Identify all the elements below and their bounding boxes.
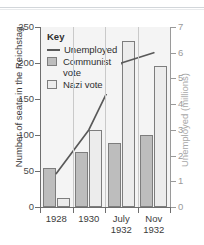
x-axis-tick [105, 208, 106, 213]
category-separator [105, 27, 106, 207]
x-axis-tick [40, 208, 41, 213]
category-separator [73, 27, 74, 207]
legend-title: Key [47, 31, 117, 42]
y-axis-left-tick-label: 0 [29, 202, 34, 212]
y-axis-right-tick [171, 78, 176, 79]
y-axis-right-tick [171, 181, 176, 182]
page-divider-rule-secondary [0, 9, 204, 10]
y-axis-right-tick [171, 53, 176, 54]
line-swatch-icon [47, 44, 60, 55]
x-axis-tick [73, 208, 74, 213]
legend-item-nazi: Nazi vote [47, 79, 117, 90]
x-axis-category-label: Nov 1932 [131, 214, 177, 235]
chart-legend: Key Unemployed Communist vote Nazi vote [44, 29, 121, 94]
y-axis-right-title: Unemployed (millions) [180, 55, 190, 185]
y-axis-right-tick [171, 156, 176, 157]
y-axis-left-title: Number of seats in the Reichstag [14, 22, 24, 172]
y-axis-right-tick-label: 0 [178, 202, 183, 212]
legend-item-label: Communist vote [63, 56, 117, 78]
legend-item-unemployed: Unemployed [47, 44, 117, 55]
y-axis-right-tick [171, 104, 176, 105]
x-axis-tick [170, 208, 171, 213]
y-axis-right-tick [171, 130, 176, 131]
y-axis-left-tick-label: 50 [23, 166, 34, 176]
y-axis-left-tick [35, 63, 40, 64]
y-axis-left-tick [35, 171, 40, 172]
category-separator [138, 27, 139, 207]
y-axis-left-tick [35, 99, 40, 100]
y-axis-left-tick [35, 27, 40, 28]
legend-item-label: Nazi vote [63, 79, 117, 90]
y-axis-right-tick [171, 27, 176, 28]
page-divider-rule [0, 7, 204, 8]
communist-swatch-icon [47, 57, 57, 66]
chart-figure: 05010015020025001234567 Number of seats … [0, 0, 204, 245]
legend-item-communist: Communist vote [47, 56, 117, 78]
y-axis-right-tick-label: 7 [178, 22, 183, 32]
nazi-swatch-icon [47, 80, 57, 89]
y-axis-right-tick [171, 207, 176, 208]
x-axis-tick [138, 208, 139, 213]
y-axis-left-tick [35, 135, 40, 136]
y-axis-left-line [40, 27, 41, 208]
